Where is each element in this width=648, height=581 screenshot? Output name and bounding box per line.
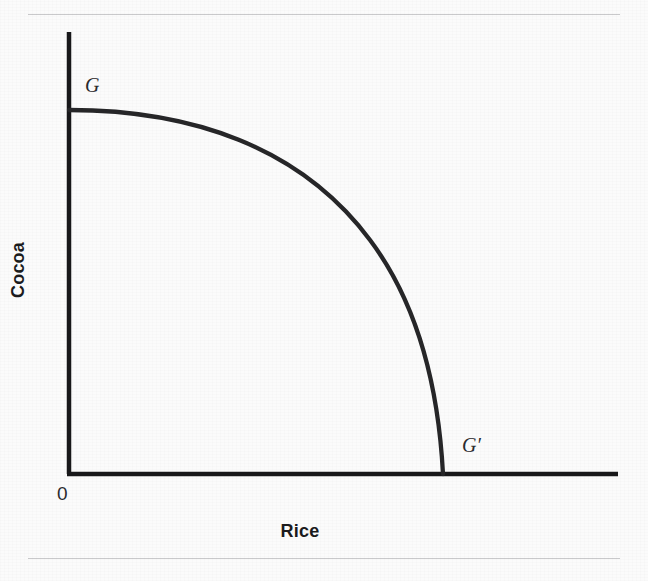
x-axis-title: Rice xyxy=(0,521,600,542)
label-g: G xyxy=(85,74,99,97)
origin-label: 0 xyxy=(57,483,68,505)
ppf-figure: Cocoa Rice G G′ 0 xyxy=(0,0,648,581)
label-g-prime: G′ xyxy=(462,434,481,457)
ppf-curve xyxy=(69,110,443,474)
y-axis-title: Cocoa xyxy=(8,238,29,302)
